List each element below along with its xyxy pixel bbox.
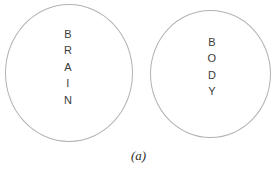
- figure-container: B R A I N B O D Y (a): [0, 0, 277, 172]
- label-brain-letter: A: [64, 59, 72, 75]
- label-body: B O D Y: [150, 34, 274, 100]
- label-body-letter: B: [208, 34, 216, 50]
- label-body-letter: O: [208, 50, 217, 66]
- label-brain-letter: R: [64, 42, 72, 58]
- label-body-letter: Y: [208, 83, 216, 99]
- figure-caption: (a): [0, 148, 277, 164]
- label-brain: B R A I N: [0, 26, 136, 108]
- label-brain-letter: N: [64, 92, 72, 108]
- label-brain-letter: B: [64, 26, 72, 42]
- label-body-letter: D: [208, 67, 216, 83]
- label-brain-letter: I: [66, 75, 69, 91]
